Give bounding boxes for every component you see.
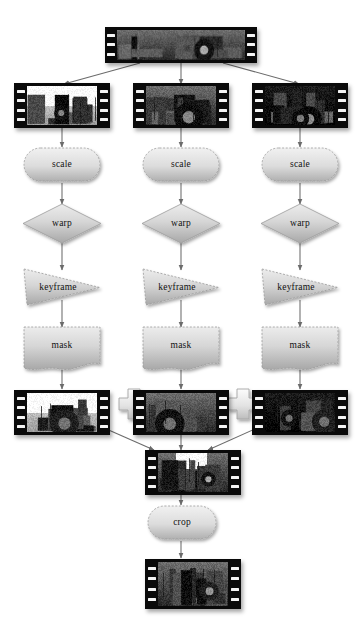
- film-perforations-left: [14, 86, 27, 125]
- shape-keyframe-center[interactable]: [143, 269, 219, 305]
- film-frame: [146, 86, 216, 125]
- film-frame: [27, 86, 97, 125]
- film-perforations-left: [133, 393, 146, 432]
- shape-scale-center[interactable]: [143, 148, 219, 181]
- shape-scale-right[interactable]: [262, 148, 338, 181]
- film-frame: [158, 453, 228, 492]
- source-film-strip[interactable]: [105, 27, 257, 63]
- final-clip[interactable]: [145, 559, 241, 609]
- film-frame: [158, 562, 228, 606]
- input-clip-right[interactable]: [252, 83, 348, 128]
- film-perforations-right: [245, 30, 257, 60]
- film-frame: [265, 393, 335, 432]
- film-frame: [27, 393, 97, 432]
- film-perforations-left: [105, 30, 117, 60]
- film-perforations-left: [252, 393, 265, 432]
- film-perforations-right: [216, 86, 229, 125]
- input-clip-left[interactable]: [14, 83, 110, 128]
- film-perforations-right: [216, 393, 229, 432]
- masked-clip-right[interactable]: [252, 390, 348, 435]
- shape-crop[interactable]: [148, 506, 216, 539]
- film-frame: [117, 30, 245, 60]
- film-perforations-right: [97, 393, 110, 432]
- film-perforations-right: [228, 562, 241, 606]
- film-perforations-right: [335, 86, 348, 125]
- film-frame: [265, 86, 335, 125]
- shape-keyframe-right[interactable]: [262, 269, 338, 305]
- shape-warp-center[interactable]: [142, 204, 220, 243]
- film-frame: [146, 393, 216, 432]
- film-perforations-left: [145, 562, 158, 606]
- edge-source-to-left: [64, 63, 140, 84]
- masked-clip-left[interactable]: [14, 390, 110, 435]
- film-perforations-left: [252, 86, 265, 125]
- shape-mask-right[interactable]: [262, 327, 338, 369]
- film-perforations-right: [335, 393, 348, 432]
- film-perforations-left: [14, 393, 27, 432]
- input-clip-center[interactable]: [133, 83, 229, 128]
- shape-mask-center[interactable]: [143, 327, 219, 369]
- film-perforations-right: [228, 453, 241, 492]
- shape-warp-right[interactable]: [261, 204, 339, 243]
- shape-warp-left[interactable]: [23, 204, 101, 243]
- shape-mask-left[interactable]: [24, 327, 100, 369]
- masked-clip-center[interactable]: [133, 390, 229, 435]
- film-perforations-left: [145, 453, 158, 492]
- shape-keyframe-left[interactable]: [24, 269, 100, 305]
- film-perforations-right: [97, 86, 110, 125]
- shape-scale-left[interactable]: [24, 148, 100, 181]
- composited-clip[interactable]: [145, 450, 241, 495]
- edge-source-to-right: [223, 63, 299, 84]
- film-perforations-left: [133, 86, 146, 125]
